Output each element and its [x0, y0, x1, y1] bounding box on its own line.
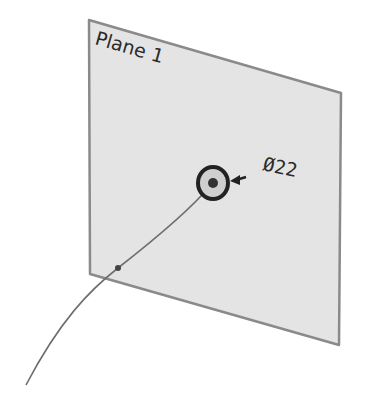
curve-plane-intersection-point [115, 265, 121, 271]
hole-center-point [208, 178, 218, 188]
diagram-canvas: Plane 1 Ø22 [0, 0, 369, 408]
